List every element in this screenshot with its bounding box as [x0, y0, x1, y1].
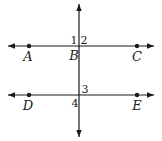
label-C: C — [132, 49, 142, 64]
transversal-line-end-arrowhead-icon — [76, 130, 81, 137]
bottom-parallel-line-start-arrowhead-icon — [8, 92, 15, 97]
bottom-parallel-line-end-arrowhead-icon — [147, 92, 154, 97]
point-C — [135, 44, 139, 48]
transversal-line-start-arrowhead-icon — [76, 4, 81, 11]
label-E: E — [131, 98, 142, 113]
point-E — [135, 93, 139, 97]
label-A: A — [22, 49, 32, 64]
label-angle-4: 4 — [72, 97, 79, 110]
label-B: B — [68, 48, 79, 63]
parallel-lines-transversal-diagram: ABCDE1234 — [0, 0, 162, 141]
point-A — [27, 44, 31, 48]
top-parallel-line-end-arrowhead-icon — [147, 43, 154, 48]
diagram-canvas: ABCDE1234 — [0, 0, 162, 141]
top-parallel-line-start-arrowhead-icon — [8, 43, 15, 48]
point-D — [27, 93, 31, 97]
label-D: D — [22, 98, 34, 113]
label-angle-2: 2 — [81, 34, 88, 47]
label-angle-3: 3 — [82, 83, 89, 96]
label-angle-1: 1 — [71, 34, 78, 47]
